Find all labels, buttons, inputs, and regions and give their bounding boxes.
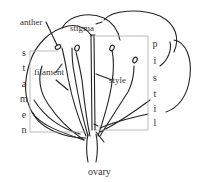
pistil-letter-l: l (150, 118, 160, 128)
style-right (94, 36, 95, 130)
anther-3 (109, 44, 115, 51)
anther-pointer (46, 22, 57, 45)
pistil-letter-t: t (150, 89, 160, 99)
filament-2 (72, 48, 88, 136)
label-anther: anther (20, 18, 43, 27)
stamen-letter-s: s (19, 48, 29, 58)
stamen-letter-t: t (19, 63, 29, 73)
flower-illustration (0, 0, 198, 182)
flower-diagram: anther stigma filament style s t a m e n… (0, 0, 198, 182)
style-left (91, 36, 92, 130)
filament-4 (98, 50, 114, 136)
petal-top-right (104, 11, 177, 52)
stamen-letter-m: m (19, 94, 29, 104)
receptacle-right (96, 134, 98, 162)
pistil-letter-s: s (150, 73, 160, 83)
anther-1 (54, 44, 61, 50)
pistil-letter-i: i (150, 56, 160, 66)
label-style: style (109, 76, 126, 85)
stamen-letter-e: e (19, 110, 29, 120)
stigma-pointer (96, 22, 102, 24)
pistil-letter-p: p (150, 39, 160, 49)
petal-right-inner (160, 42, 171, 66)
stamen-letter-n: n (19, 125, 29, 135)
anther-4 (132, 56, 138, 63)
pistil-letter-i2: i (150, 104, 160, 114)
filament-pointer-2 (56, 80, 68, 90)
label-filament: filament (34, 68, 64, 77)
anther-2 (74, 44, 80, 51)
label-stigma: stigma (70, 24, 94, 33)
filament-7 (100, 114, 148, 128)
petal-left-inner (40, 66, 84, 140)
filament-1 (62, 48, 86, 136)
receptacle-left (87, 134, 89, 162)
caption-ovary: ovary (88, 167, 111, 177)
stamen-letter-a: a (19, 79, 29, 89)
